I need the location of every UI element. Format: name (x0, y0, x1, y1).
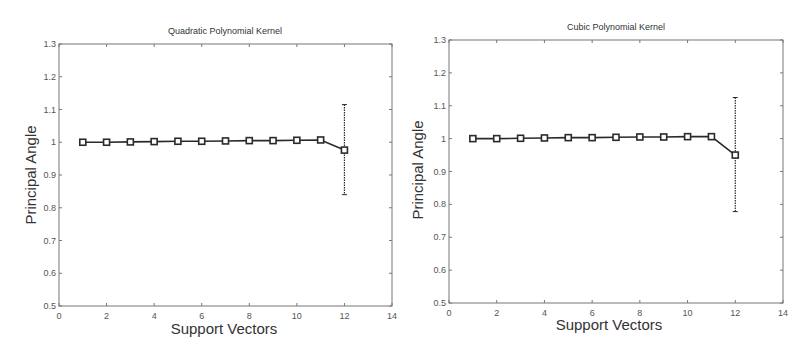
plot-area: 024681012140.50.60.70.80.911.11.21.3 (0, 0, 402, 352)
y-tick-label: 0.6 (43, 268, 56, 278)
y-tick-label: 1.1 (433, 101, 446, 111)
data-line (473, 137, 735, 155)
x-axis-label: Support Vectors (171, 320, 278, 337)
y-tick-label: 1.1 (43, 105, 56, 115)
square-marker (589, 135, 595, 141)
square-marker (127, 139, 133, 145)
square-marker (270, 138, 276, 144)
square-marker (341, 147, 347, 153)
x-tick-label: 2 (494, 308, 499, 318)
square-marker (541, 135, 547, 141)
square-marker (175, 138, 181, 144)
y-tick-label: 0.7 (43, 236, 56, 246)
x-axis-label: Support Vectors (556, 316, 663, 333)
axes-box (449, 40, 783, 303)
x-tick-label: 10 (292, 311, 302, 321)
y-tick-label: 1.2 (433, 68, 446, 78)
square-marker (80, 139, 86, 145)
y-axis-label: Principal Angle (409, 120, 426, 219)
y-tick-label: 0.7 (433, 232, 446, 242)
square-marker (199, 138, 205, 144)
x-tick-label: 0 (446, 308, 451, 318)
chart-quadratic-kernel: Quadratic Polynomial Kernel 024681012140… (0, 0, 402, 352)
square-marker (151, 139, 157, 145)
plot-area: 024681012140.50.60.70.80.911.11.21.3 (391, 0, 804, 352)
square-marker (294, 137, 300, 143)
square-marker (661, 134, 667, 140)
x-tick-label: 12 (730, 308, 740, 318)
y-tick-label: 0.9 (433, 167, 446, 177)
square-marker (318, 137, 324, 143)
data-line (83, 140, 345, 150)
square-marker (470, 136, 476, 142)
y-tick-label: 0.5 (43, 301, 56, 311)
x-tick-label: 14 (778, 308, 788, 318)
x-tick-label: 2 (104, 311, 109, 321)
y-tick-label: 1.2 (43, 72, 56, 82)
square-marker (708, 134, 714, 140)
y-axis-label: Principal Angle (22, 125, 39, 224)
y-tick-label: 0.5 (433, 298, 446, 308)
y-tick-label: 0.8 (433, 199, 446, 209)
y-tick-label: 1 (441, 134, 446, 144)
square-marker (565, 135, 571, 141)
square-marker (223, 138, 229, 144)
axes-box (59, 44, 392, 306)
x-tick-label: 4 (152, 311, 157, 321)
square-marker (637, 134, 643, 140)
chart-cubic-kernel: Cubic Polynomial Kernel 024681012140.50.… (391, 0, 804, 352)
square-marker (732, 152, 738, 158)
x-tick-label: 10 (683, 308, 693, 318)
square-marker (494, 136, 500, 142)
x-tick-label: 4 (542, 308, 547, 318)
y-tick-label: 0.6 (433, 265, 446, 275)
x-tick-label: 0 (56, 311, 61, 321)
square-marker (246, 138, 252, 144)
square-marker (685, 134, 691, 140)
y-tick-label: 1 (51, 137, 56, 147)
y-tick-label: 1.3 (433, 35, 446, 45)
square-marker (104, 139, 110, 145)
square-marker (613, 134, 619, 140)
x-tick-label: 12 (339, 311, 349, 321)
y-tick-label: 0.9 (43, 170, 56, 180)
y-tick-label: 0.8 (43, 203, 56, 213)
square-marker (518, 135, 524, 141)
y-tick-label: 1.3 (43, 39, 56, 49)
